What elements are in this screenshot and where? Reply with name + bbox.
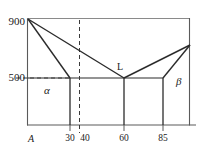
y-axis-label-500: 500: [0, 72, 25, 83]
phase-boundary-lines: [28, 19, 190, 78]
x-axis-ticks: [70, 125, 163, 131]
x-axis-origin-label: A: [25, 134, 37, 144]
region-label-beta: β: [176, 76, 181, 87]
x-axis-tick-60: 60: [112, 134, 136, 144]
subsolidus-vertical-lines: [70, 78, 163, 125]
region-label-alpha: α: [44, 85, 50, 96]
x-axis-tick-85: 85: [151, 134, 175, 144]
x-axis-tick-40: 40: [73, 134, 97, 144]
region-label-liquid: L: [117, 62, 123, 72]
y-axis-label-900: 900: [0, 16, 25, 27]
phase-diagram-figure: 900 500 A 30 40 60 85 α L β: [0, 0, 201, 160]
